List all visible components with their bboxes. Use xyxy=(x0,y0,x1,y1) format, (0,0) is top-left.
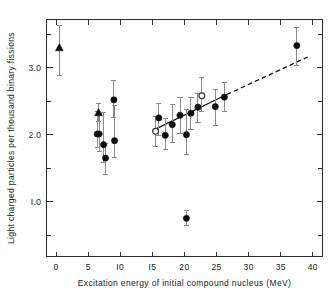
markers-group xyxy=(56,43,300,222)
data-point-filled-circle xyxy=(212,103,218,109)
data-point-filled-circle xyxy=(156,115,162,121)
data-point-filled-circle xyxy=(111,97,117,103)
data-point-filled-circle xyxy=(111,138,117,144)
data-point-filled-circle xyxy=(188,110,194,116)
data-point-filled-circle xyxy=(96,131,102,137)
data-point-filled-circle xyxy=(101,142,107,148)
x-tick-label: 30 xyxy=(244,262,254,272)
y-tick-label: 2.0 xyxy=(28,130,41,140)
x-tick-label: 25 xyxy=(211,262,221,272)
data-point-filled-circle xyxy=(221,94,227,100)
fit-line-dashed xyxy=(227,57,308,94)
data-point-open-circle xyxy=(199,93,205,99)
x-tick-label: 40 xyxy=(308,262,318,272)
data-point-filled-circle xyxy=(183,215,189,221)
x-axis-title: Excitation energy of initial compound nu… xyxy=(78,278,291,288)
data-point-filled-circle xyxy=(102,155,108,161)
y-tick-label: I.0 xyxy=(31,197,42,207)
data-point-filled-circle xyxy=(177,112,183,118)
data-point-filled-circle xyxy=(195,104,201,110)
data-point-filled-circle xyxy=(183,132,189,138)
y-axis-title: Light charged particles per thousand bin… xyxy=(6,32,16,244)
scatter-plot: 05I0I52025303540I.02.03.0Excitation ener… xyxy=(0,0,336,297)
x-tick-label: 35 xyxy=(276,262,286,272)
figure-container: 05I0I52025303540I.02.03.0Excitation ener… xyxy=(0,0,336,297)
x-tick-label: I5 xyxy=(148,262,156,272)
data-point-filled-circle xyxy=(294,43,300,49)
x-tick-label: 0 xyxy=(54,262,59,272)
data-point-triangle xyxy=(56,44,64,51)
error-bars-group xyxy=(57,26,300,226)
data-point-filled-circle xyxy=(162,132,168,138)
x-tick-label: 5 xyxy=(86,262,91,272)
x-tick-label: 20 xyxy=(179,262,189,272)
data-point-open-circle xyxy=(153,128,159,134)
data-point-filled-circle xyxy=(169,122,175,128)
y-tick-label: 3.0 xyxy=(28,63,41,73)
x-tick-label: I0 xyxy=(116,262,124,272)
